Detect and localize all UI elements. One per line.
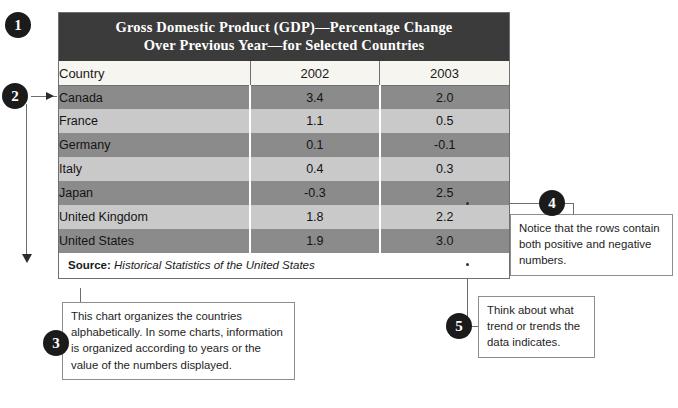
table-row: United Kingdom 1.8 2.2 [59, 205, 509, 229]
cell-2003: 2.5 [380, 181, 509, 205]
gdp-data-table: Country 2002 2003 Canada 3.4 2.0 France … [59, 61, 509, 253]
table-row: Canada 3.4 2.0 [59, 85, 509, 109]
table-title-line-2: Over Previous Year—for Selected Countrie… [75, 37, 493, 55]
cell-country: Canada [59, 85, 250, 109]
cell-2003: 0.3 [380, 157, 509, 181]
cell-2003: 2.0 [380, 85, 509, 109]
column-header-2003: 2003 [380, 61, 509, 85]
table-body: Canada 3.4 2.0 France 1.1 0.5 Germany 0.… [59, 85, 509, 253]
marker-4[interactable]: 4 [540, 191, 564, 215]
gdp-table-block: Gross Domestic Product (GDP)—Percentage … [58, 12, 510, 279]
cell-2003: 0.5 [380, 109, 509, 133]
cell-2002: -0.3 [250, 181, 379, 205]
table-title: Gross Domestic Product (GDP)—Percentage … [59, 13, 509, 61]
marker-5[interactable]: 5 [447, 314, 471, 338]
marker-3[interactable]: 3 [44, 331, 68, 355]
anchor-dot-japan-2003 [466, 202, 469, 205]
source-label: Source: [68, 259, 111, 271]
cell-country: United Kingdom [59, 205, 250, 229]
callout-box-3: This chart organizes the countries alpha… [62, 302, 295, 380]
column-header-2002: 2002 [250, 61, 379, 85]
source-note: Source: Historical Statistics of the Uni… [59, 253, 509, 278]
marker-1[interactable]: 1 [6, 13, 30, 37]
anchor-dot-united-states-2003 [466, 263, 469, 266]
table-title-line-1: Gross Domestic Product (GDP)—Percentage … [75, 19, 493, 37]
arrowhead-rows-span [22, 254, 32, 263]
callout-box-4: Notice that the rows contain both positi… [510, 214, 673, 276]
table-row: France 1.1 0.5 [59, 109, 509, 133]
cell-2002: 3.4 [250, 85, 379, 109]
cell-country: Japan [59, 181, 250, 205]
cell-country: Germany [59, 133, 250, 157]
table-header-row: Country 2002 2003 [59, 61, 509, 85]
table-row: United States 1.9 3.0 [59, 229, 509, 253]
figure-canvas: Gross Domestic Product (GDP)—Percentage … [0, 0, 678, 408]
source-title: Historical Statistics of the United Stat… [114, 259, 315, 271]
marker-2[interactable]: 2 [3, 84, 27, 108]
cell-country: Italy [59, 157, 250, 181]
table-row: Italy 0.4 0.3 [59, 157, 509, 181]
cell-2002: 0.4 [250, 157, 379, 181]
cell-2003: -0.1 [380, 133, 509, 157]
cell-2003: 3.0 [380, 229, 509, 253]
column-header-country: Country [59, 61, 250, 85]
callout-box-5: Think about what trend or trends the dat… [478, 296, 595, 358]
cell-2002: 1.8 [250, 205, 379, 229]
cell-2003: 2.2 [380, 205, 509, 229]
table-row: Germany 0.1 -0.1 [59, 133, 509, 157]
callout-5-text: Think about what trend or trends the dat… [487, 304, 580, 348]
cell-2002: 1.1 [250, 109, 379, 133]
cell-country: United States [59, 229, 250, 253]
cell-2002: 0.1 [250, 133, 379, 157]
callout-3-text: This chart organizes the countries alpha… [71, 310, 283, 371]
table-row: Japan -0.3 2.5 [59, 181, 509, 205]
cell-2002: 1.9 [250, 229, 379, 253]
leader-line-rows-span [26, 104, 27, 256]
table-header: Country 2002 2003 [59, 61, 509, 85]
arrowhead-marker-2 [46, 92, 54, 100]
cell-country: France [59, 109, 250, 133]
callout-4-text: Notice that the rows contain both positi… [519, 222, 660, 266]
